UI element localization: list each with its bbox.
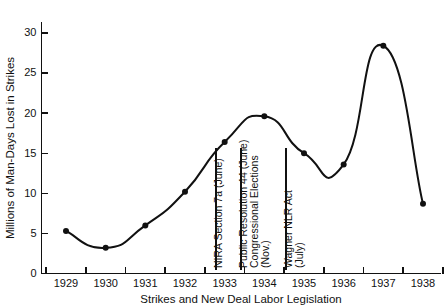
y-axis-title: Millions of Man-Days Lost in Strikes — [4, 57, 16, 239]
data-point-marker — [222, 139, 228, 145]
x-tick-label: 1935 — [292, 277, 316, 289]
data-point-marker — [261, 113, 267, 119]
strikes-line-chart: 051015202530 192919301931193219331934193… — [0, 0, 447, 308]
x-tick-label: 1930 — [93, 277, 117, 289]
x-tick-label: 1934 — [252, 277, 276, 289]
data-point-marker — [341, 161, 347, 167]
x-tick-label: 1937 — [371, 277, 395, 289]
data-point-marker — [301, 150, 307, 156]
x-tick-label: 1933 — [212, 277, 236, 289]
x-tick-label: 1929 — [54, 277, 78, 289]
y-tick-label: 10 — [24, 187, 36, 199]
data-point-marker — [142, 222, 148, 228]
y-tick-label: 15 — [24, 147, 36, 159]
data-point-marker — [420, 201, 426, 207]
annotation-label: (July) — [293, 242, 305, 268]
x-axis-ticks: 1929193019311932193319341935193619371938 — [46, 267, 443, 289]
x-tick-label: 1931 — [133, 277, 157, 289]
x-axis: 1929193019311932193319341935193619371938 — [42, 267, 443, 289]
y-tick-label: 5 — [30, 227, 36, 239]
data-point-marker — [380, 43, 386, 49]
y-axis: 051015202530 — [24, 22, 47, 279]
data-point-marker — [182, 189, 188, 195]
y-tick-label: 25 — [24, 66, 36, 78]
chart-canvas: 051015202530 192919301931193219331934193… — [0, 0, 447, 308]
x-tick-label: 1938 — [411, 277, 435, 289]
x-axis-title: Strikes and New Deal Labor Legislation — [140, 293, 341, 305]
x-tick-label: 1936 — [331, 277, 355, 289]
data-point-marker — [103, 245, 109, 251]
y-tick-label: 30 — [24, 26, 36, 38]
annotation-label: (Nov.) — [259, 240, 271, 268]
data-point-marker — [63, 228, 69, 234]
x-tick-label: 1932 — [173, 277, 197, 289]
y-tick-label: 0 — [30, 267, 36, 279]
annotation-label: NIRA Section 7a (June) — [212, 158, 224, 268]
y-axis-ticks: 051015202530 — [24, 26, 47, 279]
y-tick-label: 20 — [24, 107, 36, 119]
event-annotations: NIRA Section 7a (June)Public Resolution … — [212, 140, 305, 270]
